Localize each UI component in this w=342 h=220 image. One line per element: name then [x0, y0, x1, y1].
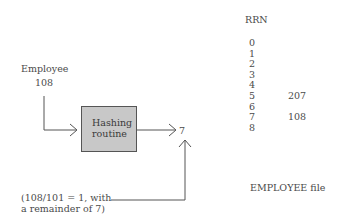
record-value: 207: [288, 91, 306, 102]
hashing-label-line1: Hashing: [92, 117, 132, 128]
record-value: 108: [288, 112, 306, 123]
rrn-number: 5: [249, 91, 255, 102]
employee-label: Employee: [21, 63, 68, 74]
rrn-number: 8: [249, 123, 255, 134]
hash-result: 7: [179, 125, 185, 136]
hashing-routine-label: Hashing routine: [92, 117, 132, 139]
rrn-number: 0: [249, 38, 255, 49]
employee-key: 108: [35, 77, 53, 88]
hashing-label-line2: routine: [92, 128, 132, 139]
note-line2: a remainder of 7): [21, 203, 105, 214]
note-line1: (108/101 = 1, with: [21, 192, 111, 203]
file-caption: EMPLOYEE file: [250, 182, 325, 193]
rrn-header: RRN: [245, 14, 268, 25]
